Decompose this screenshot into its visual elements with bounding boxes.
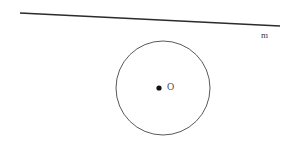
figure-background xyxy=(0,0,288,143)
center-label-o: O xyxy=(167,82,174,92)
line-label-m: m xyxy=(261,31,268,40)
center-point-dot xyxy=(156,85,161,90)
geometry-figure-canvas: m O xyxy=(0,0,288,143)
geometry-figure-svg xyxy=(0,0,288,143)
